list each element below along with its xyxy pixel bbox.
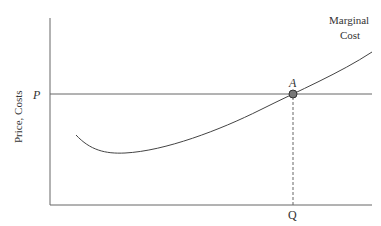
y-axis-label: Price, Costs: [12, 90, 24, 143]
curve-label-line1: Marginal: [329, 14, 369, 26]
quantity-label: Q: [288, 208, 297, 222]
point-a-label: A: [288, 76, 297, 90]
marginal-cost-curve: [76, 52, 372, 153]
price-label: P: [32, 88, 41, 102]
curve-label-line2: Cost: [340, 29, 360, 41]
equilibrium-point-a: [289, 90, 297, 98]
marginal-cost-diagram: A P Q Marginal Cost Price, Costs: [0, 0, 381, 226]
